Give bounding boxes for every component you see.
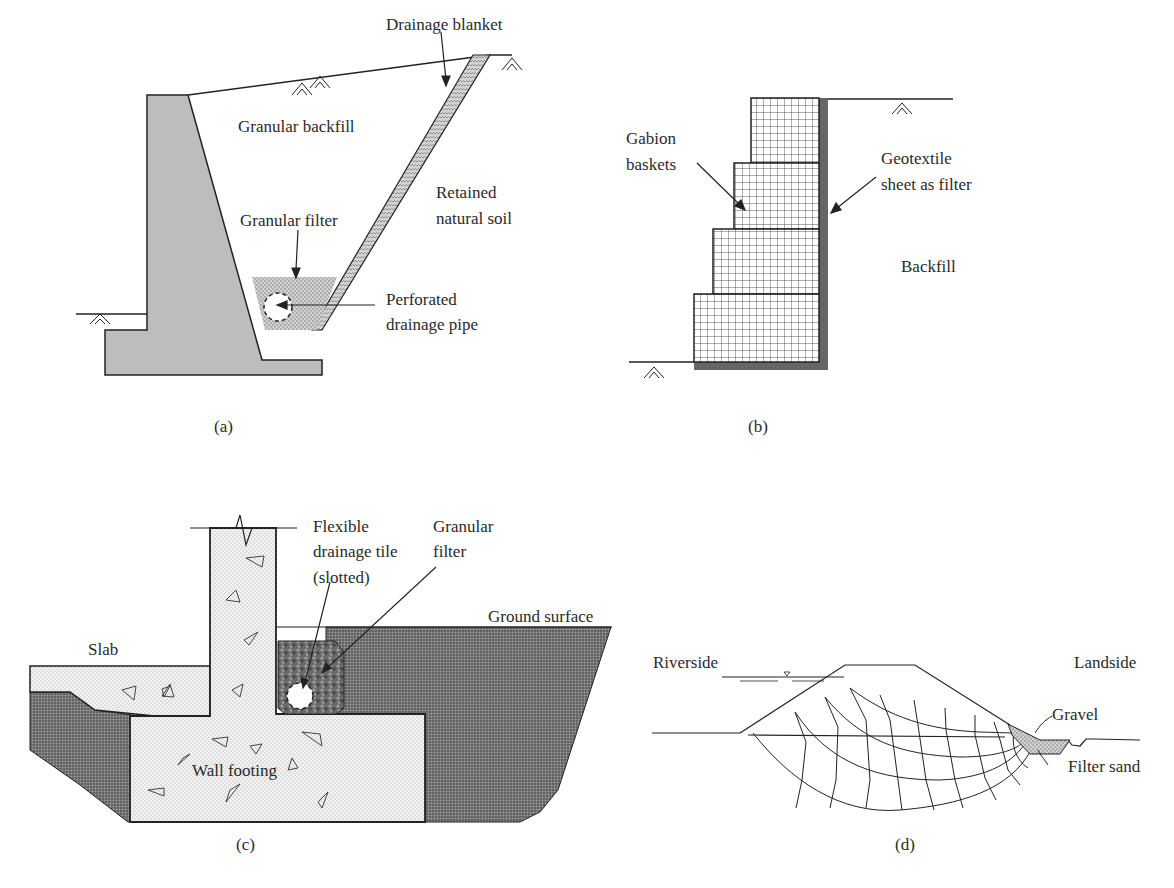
label-granular-1: Granular — [433, 517, 494, 536]
panel-c: Flexible drainage tile (slotted) Granula… — [30, 515, 612, 854]
label-retained-soil-1: Retained — [436, 183, 497, 202]
panel-d: Riverside Landside Gravel Filter sand (d… — [652, 653, 1141, 854]
label-granular-filter: Granular filter — [240, 211, 338, 230]
label-flexible-1: Flexible — [313, 517, 369, 536]
retaining-wall — [105, 95, 322, 375]
drainage-tile-icon — [287, 683, 313, 709]
caption-c: (c) — [236, 835, 255, 854]
label-flexible-2: drainage tile — [313, 542, 398, 561]
gabion-basket-3 — [713, 229, 819, 294]
label-slab: Slab — [88, 640, 118, 659]
embankment — [740, 665, 1010, 733]
label-drainage-blanket: Drainage blanket — [386, 15, 503, 34]
label-landside: Landside — [1074, 653, 1136, 672]
label-granular-2: filter — [433, 542, 466, 561]
water-level-icon — [784, 672, 790, 676]
label-ground-surface: Ground surface — [488, 607, 593, 626]
label-gravel: Gravel — [1052, 705, 1099, 724]
geotextile-sheet — [819, 98, 828, 370]
label-perforated-2: drainage pipe — [386, 315, 478, 334]
flow-net — [753, 688, 1031, 810]
label-geotextile-2: sheet as filter — [881, 175, 972, 194]
label-wall-footing: Wall footing — [192, 761, 278, 780]
drainage-pipe-icon — [264, 293, 292, 321]
label-gabion-1: Gabion — [626, 129, 677, 148]
label-retained-soil-2: natural soil — [436, 209, 512, 228]
caption-d: (d) — [895, 835, 915, 854]
panel-a: Drainage blanket Granular backfill Retai… — [76, 15, 522, 436]
label-filter-sand: Filter sand — [1068, 757, 1141, 776]
caption-b: (b) — [748, 417, 768, 436]
panel-b: Gabion baskets Geotextile sheet as filte… — [626, 98, 972, 436]
label-perforated-1: Perforated — [386, 290, 457, 309]
label-backfill: Backfill — [901, 257, 956, 276]
figure-canvas: Drainage blanket Granular backfill Retai… — [0, 0, 1174, 888]
label-gabion-2: baskets — [626, 155, 676, 174]
gabion-basket-2 — [734, 163, 819, 229]
label-geotextile-1: Geotextile — [881, 149, 952, 168]
label-riverside: Riverside — [653, 653, 718, 672]
label-flexible-3: (slotted) — [313, 568, 370, 587]
gravel-filter — [1008, 724, 1070, 754]
gabion-basket-4 — [694, 294, 819, 362]
label-granular-backfill: Granular backfill — [238, 117, 355, 136]
caption-a: (a) — [214, 417, 233, 436]
gabion-basket-1 — [751, 98, 819, 163]
